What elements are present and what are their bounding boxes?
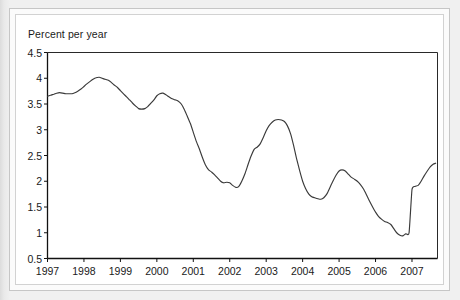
tick-marks-group: [44, 53, 412, 263]
data-series-line: [48, 77, 436, 236]
line-chart: Percent per year 4.543.532.521.510.5 199…: [0, 0, 460, 300]
plot-canvas: [0, 0, 460, 300]
axes-group: [48, 53, 438, 259]
